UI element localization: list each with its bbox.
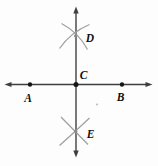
point-c-dot xyxy=(74,82,79,87)
stray-speck xyxy=(96,103,98,105)
point-a-label: A xyxy=(23,92,32,104)
point-e-label: E xyxy=(86,128,95,140)
geometry-construction-diagram: A B C D E xyxy=(0,0,158,166)
point-b-dot xyxy=(120,82,124,86)
point-c-label: C xyxy=(80,69,88,81)
perpendicular-bisector-canvas: A B C D E xyxy=(0,0,158,166)
intersection-d-dot xyxy=(74,34,77,37)
point-d-label: D xyxy=(85,32,95,44)
diagram-background xyxy=(0,0,158,166)
intersection-e-dot xyxy=(74,130,77,133)
point-b-label: B xyxy=(116,91,125,103)
point-a-dot xyxy=(28,82,32,86)
